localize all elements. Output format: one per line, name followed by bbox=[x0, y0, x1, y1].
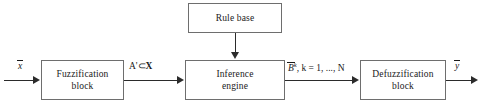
fuzzy-system-block-diagram: Rule base Fuzzification block Inference … bbox=[0, 0, 483, 109]
label-fuzzified-input: A'⊂X bbox=[129, 61, 152, 72]
block-fuzzification: Fuzzification block bbox=[41, 60, 124, 100]
block-rule-base-label: Rule base bbox=[216, 12, 255, 24]
arrowhead-inference-to-defuzzification-icon bbox=[352, 76, 359, 84]
label-inference-output: Bk, k = 1, ..., N bbox=[288, 59, 345, 74]
arrowhead-defuzzification-to-output-icon bbox=[471, 76, 478, 84]
connector-defuzzification-to-output bbox=[446, 80, 473, 81]
arrowhead-rule-base-to-inference-icon bbox=[231, 52, 239, 59]
label-input-x-text: x bbox=[18, 60, 22, 72]
label-fuzzy-set-a: A' bbox=[129, 61, 138, 71]
block-defuzzification: Defuzzification block bbox=[360, 60, 446, 100]
arrowhead-fuzzification-to-inference-icon bbox=[177, 76, 184, 84]
connector-rule-base-to-inference bbox=[235, 33, 236, 53]
block-rule-base: Rule base bbox=[188, 3, 282, 33]
block-defuzzification-label: Defuzzification block bbox=[372, 68, 433, 92]
block-inference-engine: Inference engine bbox=[185, 60, 285, 100]
block-inference-engine-label: Inference engine bbox=[216, 68, 253, 92]
connector-inference-to-defuzzification bbox=[285, 80, 353, 81]
label-input-x: x bbox=[18, 60, 22, 72]
connector-input-to-fuzzification bbox=[4, 80, 34, 81]
label-subset-symbol: ⊂ bbox=[138, 61, 146, 71]
arrowhead-input-to-fuzzification-icon bbox=[33, 76, 40, 84]
label-output-b-range: , k = 1, ..., N bbox=[297, 63, 345, 73]
label-output-y: y bbox=[455, 60, 459, 72]
label-output-b: B bbox=[288, 62, 294, 74]
label-universe-x: X bbox=[146, 61, 153, 71]
label-output-y-text: y bbox=[455, 60, 459, 72]
block-fuzzification-label: Fuzzification block bbox=[56, 68, 108, 92]
connector-fuzzification-to-inference bbox=[124, 80, 178, 81]
